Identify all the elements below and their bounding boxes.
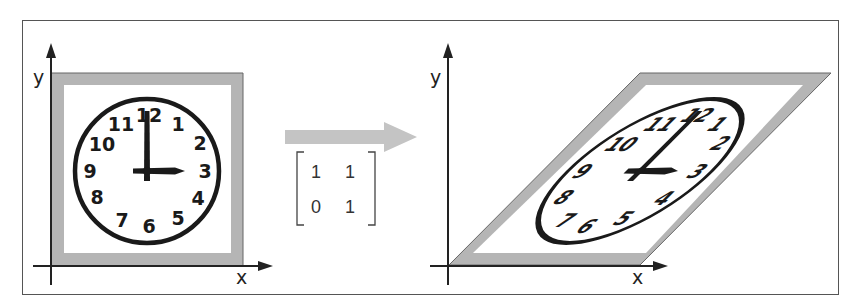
clock-num-4: 4	[191, 187, 204, 209]
clock-num-1: 1	[171, 113, 184, 135]
matrix-a11: 1	[311, 162, 321, 182]
matrix-a22: 1	[345, 197, 355, 217]
clock-sheared: 12 1 2 3 4 5 6 7 8 9 10 11	[496, 99, 784, 243]
diagram-canvas: y x 12 1 2 3 4 5 6 7 8 9 10 11	[0, 0, 862, 308]
matrix-right-bracket	[368, 152, 375, 225]
matrix-a21: 0	[311, 197, 321, 217]
x-axis-arrow-icon	[653, 261, 668, 271]
clock-num-11: 11	[108, 113, 134, 135]
y-axis-arrow-icon	[46, 43, 56, 58]
figure: y x 12 1 2 3 4 5 6 7 8 9 10 11	[0, 0, 862, 308]
left-panel: y x 12 1 2 3 4 5 6 7 8 9 10 11	[33, 43, 273, 288]
right-x-label: x	[632, 266, 643, 288]
hour-hand	[133, 168, 185, 175]
clock-num-10: 10	[89, 133, 115, 155]
transform-arrow-icon	[285, 122, 417, 152]
transform-indicator: 1 1 0 1	[285, 122, 417, 225]
clock-num-2: 2	[193, 132, 206, 154]
y-axis-arrow-icon	[443, 43, 453, 58]
clock-num-7: 7	[115, 209, 128, 231]
right-y-label: y	[430, 66, 441, 88]
right-panel: y x 12 1 2 3 4 5 6 7 8 9 10 11	[430, 43, 831, 288]
left-y-label: y	[33, 66, 44, 88]
matrix-a12: 1	[345, 162, 355, 182]
clock-num-3: 3	[198, 160, 211, 182]
matrix	[297, 152, 375, 225]
clock-num-5: 5	[171, 207, 184, 229]
x-axis-arrow-icon	[258, 261, 273, 271]
clock-num-9: 9	[83, 160, 96, 182]
matrix-left-bracket	[297, 152, 304, 225]
clock-original: 12 1 2 3 4 5 6 7 8 9 10 11	[75, 99, 219, 243]
left-x-label: x	[236, 266, 247, 288]
clock-num-8: 8	[90, 186, 103, 208]
clock-num-6: 6	[142, 215, 155, 237]
